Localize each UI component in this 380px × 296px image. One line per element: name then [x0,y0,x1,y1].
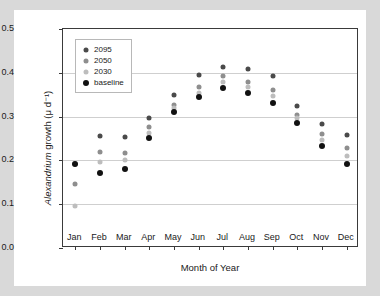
data-point [98,159,103,164]
legend-label: 2050 [94,56,112,65]
x-axis-tick-label: May [164,232,181,242]
x-axis-tick-label: Dec [338,232,354,242]
y-axis-tick-label: 0.5 [1,23,14,33]
x-axis-tick [75,246,76,250]
legend-item[interactable]: 2030 [81,66,124,77]
data-point [98,150,103,155]
x-axis-tick [199,246,200,250]
data-point [295,103,300,108]
y-axis-tick [59,160,63,161]
legend-marker-icon [81,55,91,66]
data-point [246,79,251,84]
x-axis-tick-label: Oct [289,232,303,242]
data-point [270,100,276,106]
x-axis-tick-label: Jul [217,232,229,242]
data-point [146,135,152,141]
data-point [270,74,275,79]
x-axis-tick-label: Sep [264,232,280,242]
data-point [97,170,103,176]
data-point [246,85,251,90]
legend-item[interactable]: baseline [81,77,124,88]
data-point [344,132,349,137]
data-point [246,67,251,72]
y-axis-title-italic: Alexandrium [42,152,53,205]
data-point [221,64,226,69]
x-axis-tick [347,246,348,250]
data-point [122,134,127,139]
data-point [320,132,325,137]
x-axis-tick-label: Apr [141,232,155,242]
data-point [221,74,226,79]
x-axis-tick [100,246,101,250]
data-point [73,203,78,208]
x-axis-tick [273,246,274,250]
plot-area: 209520502030baseline [62,28,358,247]
data-point [220,85,226,91]
x-axis-title: Month of Year [62,262,358,273]
data-point [147,116,152,121]
y-axis-title-plain: growth (μ d⁻¹) [42,91,53,153]
legend-label: 2030 [94,67,112,76]
data-point [344,146,349,151]
data-point [270,88,275,93]
data-point [270,93,275,98]
data-point [98,134,103,139]
data-point [172,92,177,97]
data-point [344,161,350,167]
legend-label: baseline [94,78,124,87]
x-axis-tick-label: Mar [116,232,132,242]
x-axis-tick [125,246,126,250]
y-axis-tick-label: 0.2 [1,154,14,164]
y-axis-tick [59,73,63,74]
x-axis-tick-label: Feb [91,232,107,242]
data-point [245,90,251,96]
data-point [171,109,177,115]
y-axis-tick-label: 0.3 [1,111,14,121]
data-point [320,121,325,126]
x-axis-tick [248,246,249,250]
legend: 209520502030baseline [75,39,132,93]
gridline [63,204,357,205]
y-axis-tick [59,204,63,205]
y-axis-tick [59,248,63,249]
data-point [344,153,349,158]
data-point [196,72,201,77]
x-axis-tick [149,246,150,250]
data-point [320,137,325,142]
x-axis-tick [223,246,224,250]
data-point [72,161,78,167]
gridline [63,160,357,161]
data-point [319,143,325,149]
data-point [196,94,202,100]
x-axis-tick-label: Jan [67,232,82,242]
data-point [294,120,300,126]
legend-item[interactable]: 2050 [81,55,124,66]
data-point [122,158,127,163]
y-axis-tick-label: 0.4 [1,67,14,77]
x-axis-tick-label: Jun [190,232,205,242]
y-axis-title: Alexandrium growth (μ d⁻¹) [42,53,53,243]
legend-marker-icon [81,44,91,55]
y-axis-tick [59,29,63,30]
data-point [122,166,128,172]
x-axis-tick [174,246,175,250]
x-axis-tick [322,246,323,250]
legend-marker-icon [81,66,91,77]
data-point [147,125,152,130]
legend-item[interactable]: 2095 [81,44,124,55]
figure-canvas: Alexandrium growth (μ d⁻¹) 209520502030b… [14,10,366,286]
data-point [221,79,226,84]
x-axis-tick [297,246,298,250]
y-axis-tick-label: 0.1 [1,198,14,208]
data-point [196,85,201,90]
y-axis-tick [59,117,63,118]
legend-marker-icon [81,77,91,88]
x-axis-tick-label: Aug [239,232,255,242]
data-point [73,182,78,187]
x-axis-tick-label: Nov [313,232,329,242]
gridline [63,117,357,118]
legend-label: 2095 [94,45,112,54]
data-point [122,150,127,155]
y-axis-tick-label: 0.0 [1,242,14,252]
